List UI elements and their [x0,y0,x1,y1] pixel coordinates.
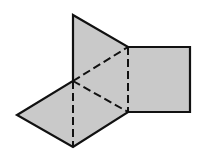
prism-net-diagram [0,0,205,156]
face-lower-left-triangle [17,81,73,147]
face-square [128,47,190,112]
diagram-canvas [0,0,205,156]
